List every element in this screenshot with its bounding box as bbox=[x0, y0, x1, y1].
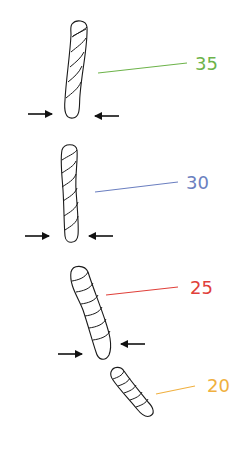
rope-20-illustration bbox=[111, 367, 154, 416]
label-30: 30 bbox=[186, 172, 209, 193]
label-35: 35 bbox=[195, 53, 218, 74]
label-20: 20 bbox=[207, 375, 230, 396]
label-25: 25 bbox=[190, 277, 213, 298]
rope-35-illustration bbox=[65, 21, 87, 118]
leader-line-35 bbox=[98, 63, 187, 73]
twisted-rope-diagram: 35 30 25 20 bbox=[0, 0, 240, 455]
leader-line-30 bbox=[95, 182, 178, 192]
leader-line-25 bbox=[106, 287, 178, 295]
rope-25-illustration bbox=[71, 266, 111, 359]
leader-line-20 bbox=[156, 386, 195, 394]
rope-30-illustration bbox=[61, 145, 78, 243]
